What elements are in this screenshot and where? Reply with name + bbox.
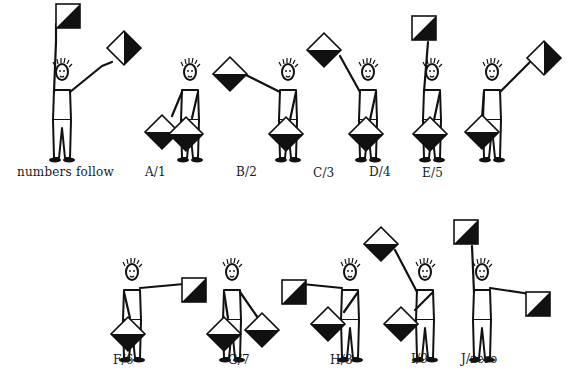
figure-a1 (145, 58, 203, 163)
semaphore-figures (0, 0, 580, 389)
figure-f6 (111, 258, 206, 363)
semaphore-diagram: numbers follow A/1 B/2 C/3 D/4 E/5 F/6 G… (0, 0, 580, 389)
label-b2: B/2 (236, 165, 257, 179)
label-h8: H/8 (330, 353, 353, 367)
figure-numbers-follow (49, 4, 141, 163)
label-j0: J/zero (461, 352, 497, 366)
label-g7: G/7 (228, 353, 250, 367)
label-d4: D/4 (369, 165, 391, 179)
label-e5: E/5 (422, 166, 443, 180)
label-f6: F/6 (113, 353, 134, 367)
figure-c3 (307, 33, 383, 162)
figure-i9 (364, 227, 438, 362)
figure-j0 (454, 220, 550, 363)
label-c3: C/3 (313, 166, 334, 180)
label-a1: A/1 (145, 165, 166, 179)
figure-d4 (412, 16, 447, 163)
figure-b2 (213, 57, 303, 162)
figure-h8 (282, 258, 363, 363)
figure-e5 (465, 41, 561, 162)
figure-g7 (207, 258, 279, 363)
label-i9: I/9 (411, 352, 428, 366)
label-numbers-follow: numbers follow (17, 165, 114, 179)
